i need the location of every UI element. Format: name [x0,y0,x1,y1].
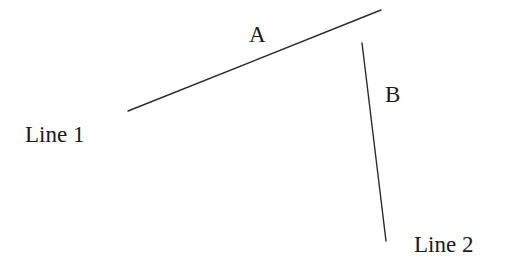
diagram-canvas: A B Line 1 Line 2 [0,0,514,278]
line-2-segment [362,43,386,241]
segment-label-a: A [249,23,266,46]
line-1-label: Line 1 [25,123,84,146]
segment-label-b: B [385,83,400,106]
line-2-label: Line 2 [414,233,473,256]
